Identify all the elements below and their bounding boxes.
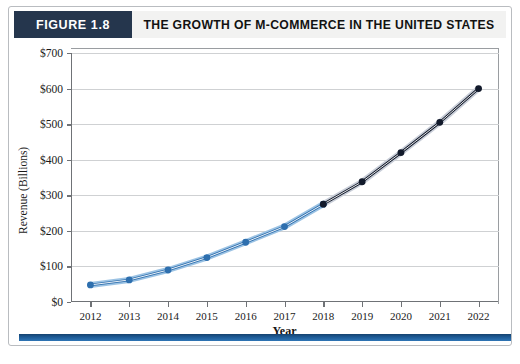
data-point-marker (320, 201, 327, 208)
series-line-halo (323, 89, 478, 205)
data-point-marker (126, 277, 133, 284)
data-point-marker (359, 178, 366, 185)
series-line-center (90, 204, 323, 285)
series-line-halo (90, 204, 323, 285)
figure-header: FIGURE 1.8 THE GROWTH OF M-COMMERCE IN T… (14, 11, 506, 38)
data-point-marker (165, 267, 172, 274)
data-point-marker (281, 223, 288, 230)
data-point-marker (475, 85, 482, 92)
data-point-marker (242, 239, 249, 246)
bottom-rule (19, 334, 511, 341)
figure-title: THE GROWTH OF M-COMMERCE IN THE UNITED S… (132, 11, 506, 38)
series-line (90, 204, 323, 285)
chart-container: Revenue (Billions) $0$100$200$300$400$50… (9, 40, 512, 340)
data-series-group (9, 40, 512, 340)
data-point-marker (398, 149, 405, 156)
figure-number-badge: FIGURE 1.8 (14, 11, 132, 38)
data-point-marker (87, 282, 94, 289)
data-point-marker (436, 119, 443, 126)
data-point-marker (203, 254, 210, 261)
figure-card: FIGURE 1.8 THE GROWTH OF M-COMMERCE IN T… (8, 6, 512, 346)
